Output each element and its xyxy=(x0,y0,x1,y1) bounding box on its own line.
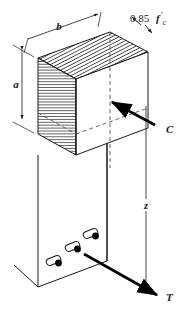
stress-subscript-c: c xyxy=(163,18,167,27)
beam-bottom-receding-edge xyxy=(14,265,38,287)
rebar-end-cap xyxy=(55,260,62,267)
stress-label-group: 0.85 f ′ c xyxy=(130,10,167,33)
a-extension-top xyxy=(13,45,34,57)
stress-value-text: 0.85 xyxy=(130,12,150,24)
b-extension-right xyxy=(98,12,101,27)
compression-stress-block xyxy=(38,32,148,155)
tension-force-arrow: T xyxy=(84,254,174,303)
stress-block-diagram: b a 0.85 f ′ c C z T xyxy=(0,0,183,314)
label-b: b xyxy=(56,20,62,32)
label-C: C xyxy=(166,123,174,135)
rebar-end-cap xyxy=(74,246,81,253)
stress-leader-lower xyxy=(145,25,152,33)
rebar-end-cap xyxy=(92,233,99,240)
a-extension-bottom xyxy=(13,122,34,133)
lever-arm-dimension-z: z xyxy=(143,106,149,288)
label-T: T xyxy=(166,291,174,303)
dimension-a: a xyxy=(13,45,34,133)
label-z: z xyxy=(143,200,149,211)
b-extension-left xyxy=(24,38,28,53)
label-a: a xyxy=(13,78,19,90)
figure-canvas: b a 0.85 f ′ c C z T xyxy=(0,0,183,314)
b-dimension-line xyxy=(28,14,98,39)
